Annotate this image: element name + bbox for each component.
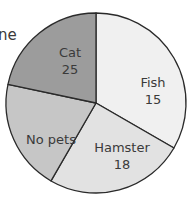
- slice-name: Cat: [59, 44, 81, 61]
- slice-name: Fish: [140, 74, 165, 91]
- slice-name: Hamster: [94, 139, 150, 156]
- slice-label-fish: Fish15: [140, 74, 165, 108]
- slice-label-hamster: Hamster18: [94, 139, 150, 173]
- slice-name: No pets: [26, 131, 76, 148]
- slice-value: 25: [59, 61, 81, 78]
- slice-value: 15: [140, 91, 165, 108]
- slice-value: 18: [94, 156, 150, 173]
- slice-label-cat: Cat25: [59, 44, 81, 78]
- slice-label-no-pets: No pets: [26, 131, 76, 148]
